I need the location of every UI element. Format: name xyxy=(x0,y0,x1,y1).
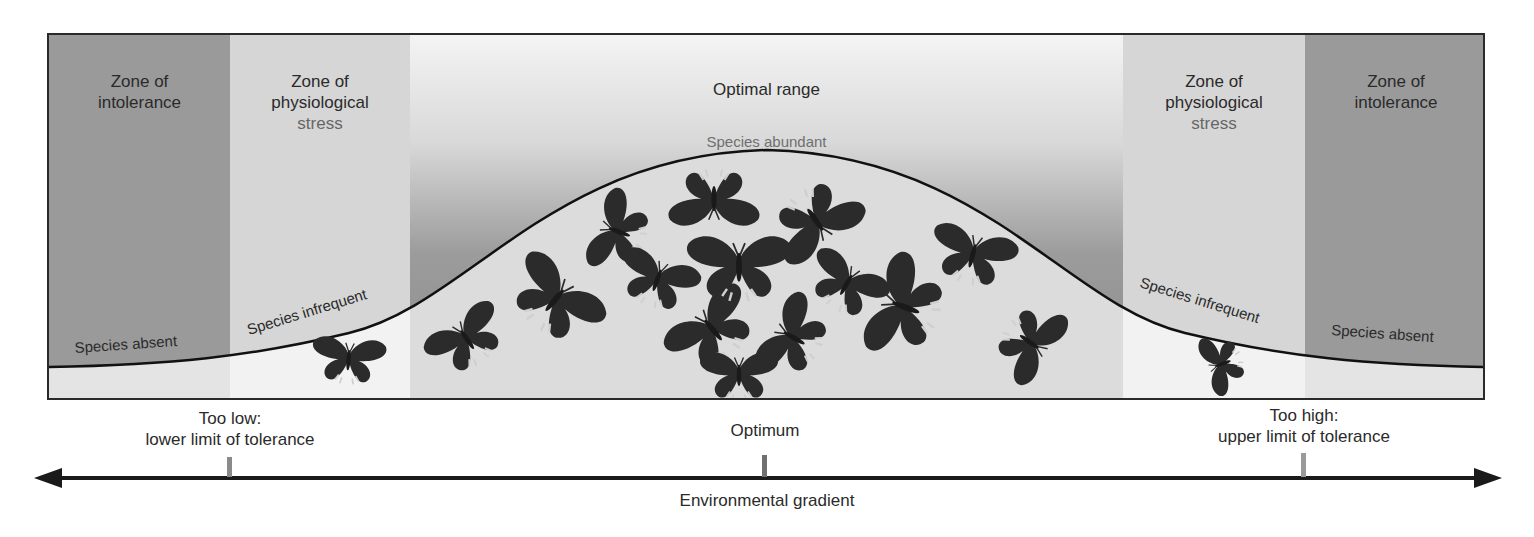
arrow-left-icon xyxy=(34,468,62,488)
population-curve: Species absent Species infrequent Specie… xyxy=(49,35,1485,400)
lower-limit-tick xyxy=(227,457,232,477)
arrow-right-icon xyxy=(1474,468,1502,488)
upper-limit-tick xyxy=(1301,453,1306,477)
optimum-tick xyxy=(762,455,767,477)
tolerance-diagram-frame: Zone of intolerance Zone of physiologica… xyxy=(47,33,1485,400)
optimum-label: Optimum xyxy=(615,420,915,441)
axis-label: Environmental gradient xyxy=(0,491,1534,511)
species-infrequent-label-right: Species infrequent xyxy=(1138,274,1263,327)
species-absent-label-left: Species absent xyxy=(74,332,178,356)
species-absent-label-right: Species absent xyxy=(1331,321,1435,345)
environmental-gradient-axis xyxy=(0,440,1534,490)
species-infrequent-label-left: Species infrequent xyxy=(245,285,370,338)
